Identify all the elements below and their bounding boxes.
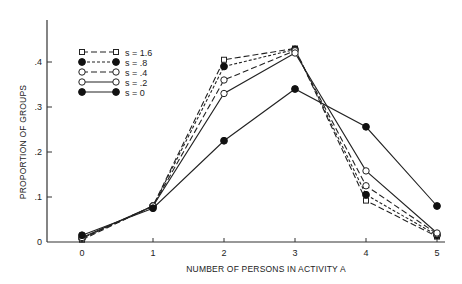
legend-item: s = 1.6 [80, 48, 153, 58]
filled-circle-marker-icon [79, 59, 86, 66]
open-circle-marker-icon [363, 183, 369, 189]
legend-item: s = .8 [79, 58, 148, 68]
legend: s = 1.6s = .8s = .4s = .2s = 0 [79, 48, 153, 98]
open-circle-marker-icon [79, 69, 85, 75]
filled-circle-marker-icon [221, 137, 228, 144]
open-circle-marker-icon [363, 168, 369, 174]
open-circle-marker-icon [113, 79, 119, 85]
legend-label: s = 1.6 [125, 48, 152, 58]
y-tick-label: 0 [37, 237, 42, 247]
x-tick-label: 0 [79, 248, 84, 258]
filled-circle-marker-icon [292, 86, 299, 93]
legend-label: s = 0 [125, 88, 145, 98]
filled-circle-marker-icon [434, 203, 441, 210]
legend-item: s = .4 [79, 68, 147, 78]
square-marker-icon [80, 50, 85, 55]
open-circle-marker-icon [79, 79, 85, 85]
filled-circle-marker-icon [113, 59, 120, 66]
filled-circle-marker-icon [363, 123, 370, 130]
square-marker-icon [364, 198, 369, 203]
filled-circle-marker-icon [150, 205, 157, 212]
filled-circle-marker-icon [79, 89, 86, 96]
filled-circle-marker-icon [79, 232, 86, 239]
legend-item: s = 0 [79, 88, 145, 98]
line-chart: 0123450.1.2.3.4 s = 1.6s = .8s = .4s = .… [0, 0, 462, 284]
x-tick-label: 1 [150, 248, 155, 258]
open-circle-marker-icon [113, 69, 119, 75]
y-tick-label: .4 [34, 57, 42, 67]
open-circle-marker-icon [292, 50, 298, 56]
legend-label: s = .4 [125, 68, 147, 78]
x-tick-label: 4 [363, 248, 368, 258]
axes: 0123450.1.2.3.4 [34, 20, 445, 258]
x-tick-label: 5 [434, 248, 439, 258]
series-s-0 [79, 86, 441, 239]
legend-label: s = .8 [125, 58, 147, 68]
x-tick-label: 2 [221, 248, 226, 258]
square-marker-icon [222, 57, 227, 62]
legend-label: s = .2 [125, 78, 147, 88]
open-circle-marker-icon [434, 230, 440, 236]
square-marker-icon [114, 50, 119, 55]
open-circle-marker-icon [221, 90, 227, 96]
y-axis-title: PROPORTION OF GROUPS [18, 85, 28, 199]
filled-circle-marker-icon [221, 63, 228, 70]
x-tick-label: 3 [292, 248, 297, 258]
y-tick-label: .3 [34, 102, 42, 112]
y-tick-label: .2 [34, 147, 42, 157]
filled-circle-marker-icon [363, 191, 370, 198]
legend-item: s = .2 [79, 78, 147, 88]
y-tick-label: .1 [34, 192, 42, 202]
filled-circle-marker-icon [113, 89, 120, 96]
x-axis-title: NUMBER OF PERSONS IN ACTIVITY A [186, 264, 346, 274]
open-circle-marker-icon [221, 77, 227, 83]
